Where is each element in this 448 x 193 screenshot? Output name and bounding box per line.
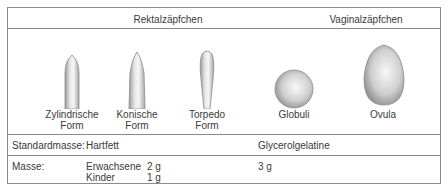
masse-child-group: Kinder — [86, 172, 115, 183]
ovule-icon — [364, 45, 404, 105]
masse-label: Masse: — [12, 161, 44, 172]
standardmasse-divider — [8, 155, 440, 156]
suppository-shapes — [8, 29, 440, 109]
globule-icon — [275, 70, 313, 108]
standardmasse-vaginal: Glycerolgelatine — [258, 140, 330, 151]
header-vaginal: Vaginalzäpfchen — [296, 14, 436, 25]
cylindrical-suppository-icon — [65, 55, 79, 109]
caption-konische: Konische Form — [97, 109, 177, 131]
header-rectal: Rektalzäpfchen — [98, 14, 238, 25]
masse-vaginal: 3 g — [258, 161, 272, 172]
caption-ovula: Ovula — [343, 109, 423, 120]
masse-adult-group: Erwachsene — [86, 161, 141, 172]
standardmasse-label: Standardmasse: — [12, 140, 85, 151]
masse-child-value: 1 g — [147, 172, 161, 183]
caption-globuli: Globuli — [254, 109, 334, 120]
masse-adult-value: 2 g — [147, 161, 161, 172]
torpedo-suppository-icon — [200, 51, 214, 109]
caption-torpedo: Torpedo Form — [167, 109, 247, 131]
conical-suppository-icon — [129, 52, 145, 109]
standardmasse-rectal: Hartfett — [86, 140, 119, 151]
suppository-table: Rektalzäpfchen Vaginalzäpfchen — [7, 7, 441, 184]
shapes-divider — [8, 134, 440, 135]
